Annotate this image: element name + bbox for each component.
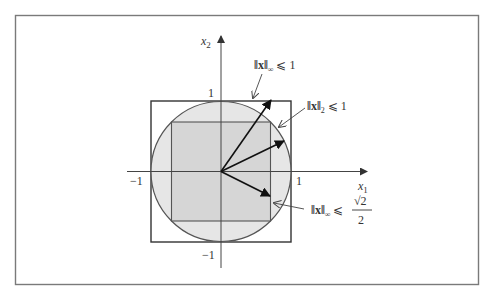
tick-y-pos: 1	[208, 86, 214, 100]
label-two-norm-le-1: ‖x‖2⩽1	[307, 99, 347, 115]
fraction-denominator: 2	[358, 213, 364, 227]
tick-x-pos: 1	[296, 174, 302, 188]
norm-unit-balls-diagram: x2 x1 1 −1 1 −1 ‖x‖∞⩽1 ‖x‖2⩽1 ‖x‖∞⩽ √2 2	[0, 0, 491, 296]
fraction-numerator: √2	[354, 194, 367, 208]
tick-x-neg: −1	[130, 174, 143, 188]
tick-y-neg: −1	[202, 248, 215, 262]
